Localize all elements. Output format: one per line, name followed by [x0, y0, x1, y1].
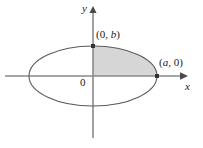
vertex-marker-b [91, 44, 95, 48]
point-label-a-0: (a, 0) [159, 57, 183, 68]
ellipse-figure: y x (0, b) (a, 0) 0 [0, 0, 203, 148]
point-a-close: , 0) [168, 56, 183, 68]
point-b-open: (0, [96, 28, 111, 40]
x-axis-arrowhead [180, 72, 188, 80]
x-axis-label: x [185, 81, 190, 92]
origin-label: 0 [80, 77, 86, 88]
figure-canvas [0, 0, 203, 148]
vertex-marker-a [155, 74, 159, 78]
point-b-close: ) [116, 28, 120, 40]
point-label-0-b: (0, b) [96, 29, 120, 40]
y-axis-label: y [82, 3, 87, 14]
y-axis-arrowhead [89, 6, 96, 13]
